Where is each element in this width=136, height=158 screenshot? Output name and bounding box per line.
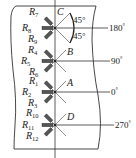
angle-annotation-lower: 45° bbox=[73, 31, 86, 41]
point-label-a: A bbox=[66, 77, 74, 88]
angle-annotation-upper: 45° bbox=[73, 15, 86, 25]
strain-gauge-diagram: C B A D 45° 45° 180° 90° 0° 270° R7 R8 R… bbox=[0, 0, 136, 158]
right-wavy-edge bbox=[92, 6, 101, 149]
gauge-r11 bbox=[42, 123, 53, 126]
point-label-c: C bbox=[57, 6, 64, 17]
gauge-r4 bbox=[44, 50, 53, 59]
gauge-r1 bbox=[44, 81, 53, 90]
gauge-r6 bbox=[44, 63, 53, 72]
point-label-b: B bbox=[67, 46, 73, 57]
gauge-r10 bbox=[44, 114, 53, 123]
gauge-label-r4: R4 bbox=[27, 44, 38, 56]
position-label-270: 270° bbox=[115, 120, 132, 130]
gauge-label-r12: R12 bbox=[25, 130, 39, 142]
position-lines bbox=[55, 28, 114, 125]
position-label-90: 90° bbox=[111, 56, 123, 66]
gauge-r2 bbox=[42, 90, 53, 93]
gauge-r7 bbox=[44, 17, 53, 26]
gauge-r3 bbox=[44, 94, 53, 103]
gauge-r12 bbox=[44, 127, 53, 136]
gauge-label-r7: R7 bbox=[28, 6, 39, 18]
left-wavy-edge bbox=[11, 6, 16, 149]
point-label-d: D bbox=[66, 111, 75, 122]
position-label-180: 180° bbox=[109, 23, 126, 33]
position-label-0: 0° bbox=[111, 87, 119, 97]
gauge-r9 bbox=[44, 30, 53, 39]
gauge-r5 bbox=[42, 59, 53, 62]
gauge-labels: R7 R8 R9 R4 R5 R6 R1 R2 R3 R10 R11 R12 bbox=[20, 6, 39, 142]
gauge-r8 bbox=[42, 26, 53, 29]
